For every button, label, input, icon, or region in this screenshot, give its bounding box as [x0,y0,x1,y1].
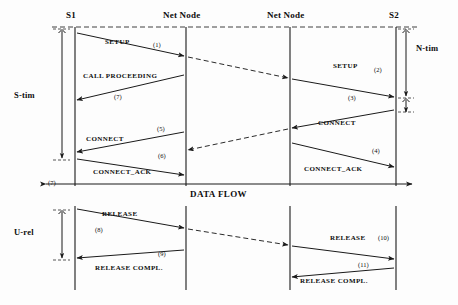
message-label-connect-right: CONNECT [318,120,356,127]
n-time-measure-bar [398,29,414,112]
n-time-label: N-tim [416,44,438,53]
lifeline-header-s1: S1 [66,11,76,20]
message-label-connect-left: CONNECT [86,136,124,143]
diagram-canvas [0,0,458,305]
s-time-label: S-tim [14,91,35,100]
message-number-release-compl-right: (11) [358,262,369,269]
arrow-network-transit-2 [188,129,288,150]
message-number-setup-1: (1) [153,42,161,49]
message-number-connect-ack-right: (4) [372,148,380,155]
arrow-release-compl-left [77,250,184,258]
message-number-connect-ack-left: (6) [158,153,166,160]
arrow-release-compl-right [292,268,394,277]
lifeline-header-net-node-2: Net Node [267,11,304,20]
arrow-network-transit-3 [188,229,288,245]
message-number-release-right: (10) [378,235,389,242]
message-label-call-proceeding: CALL PROCEEDING [83,73,157,80]
message-number-setup-2: (2) [374,67,382,74]
lifeline-header-s2: S2 [389,11,399,20]
arrow-network-transit-1 [188,57,288,78]
message-label-release-left: RELEASE [102,211,137,218]
message-number-release-compl-left: (9) [158,251,166,258]
message-number-connect-left: (5) [157,126,165,133]
s-time-measure-bar [53,29,70,160]
message-number-call-proceeding: (7) [114,94,122,101]
arrow-setup-2 [292,79,394,97]
message-label-connect-ack-right: CONNECT_ACK [304,166,362,173]
data-flow-number: (7) [48,180,56,187]
message-label-connect-ack-left: CONNECT_ACK [93,169,151,176]
message-label-setup-1: SETUP [105,39,130,46]
message-label-release-right: RELEASE [330,235,365,242]
message-label-release-compl-left: RELEASE COMPL. [95,265,163,272]
signalling-sequence-diagram: S1 Net Node Net Node S2 S-tim U-rel N-ti… [0,0,458,305]
message-number-3: (3) [348,95,356,102]
u-release-measure-bar [53,210,70,260]
u-release-label: U-rel [14,228,34,237]
message-label-setup-2: SETUP [333,63,358,70]
data-flow-label: DATA FLOW [190,190,247,199]
arrow-release-right [292,246,394,259]
lifeline-header-net-node-1: Net Node [163,11,200,20]
message-label-release-compl-right: RELEASE COMPL. [300,278,368,285]
arrow-setup-1 [77,33,184,56]
message-number-release-left: (8) [95,227,103,234]
